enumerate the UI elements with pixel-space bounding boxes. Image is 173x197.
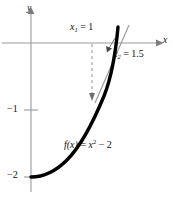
annotation-function-arg: (x) bbox=[67, 139, 78, 150]
x-axis-label: x bbox=[163, 36, 167, 46]
annotation-x2: x2 = 1.5 bbox=[113, 49, 144, 59]
annotation-x1-subscript: 1 bbox=[74, 26, 77, 33]
y-tick-label-neg-1: −1 bbox=[7, 104, 18, 114]
y-axis bbox=[28, 7, 35, 192]
annotation-x2-equals: = bbox=[121, 48, 132, 59]
annotation-x2-value: 1.5 bbox=[131, 48, 144, 59]
annotation-function: f(x) = x2 − 2 bbox=[64, 140, 112, 150]
annotation-function-tail: − 2 bbox=[96, 139, 112, 150]
annotation-x2-subscript: 2 bbox=[117, 53, 120, 60]
annotation-x1-value: 1 bbox=[88, 21, 93, 32]
annotation-x1-equals: = bbox=[78, 21, 89, 32]
y-tick-label-neg-2: −2 bbox=[7, 170, 18, 180]
annotation-function-exponent: 2 bbox=[93, 138, 96, 145]
x1-drop-arrowhead bbox=[89, 93, 95, 101]
x1-drop-line bbox=[89, 44, 95, 101]
parabola-curve bbox=[31, 27, 118, 177]
figure-container: y x −1 −2 x1 = 1 x2 = 1.5 f(x) = x2 − 2 bbox=[0, 0, 173, 197]
x2-pointer-arrowhead bbox=[106, 46, 112, 53]
annotation-function-equals: = bbox=[78, 139, 89, 150]
annotation-x1: x1 = 1 bbox=[70, 22, 93, 32]
y-axis-label: y bbox=[27, 4, 31, 14]
x-axis bbox=[2, 40, 164, 47]
